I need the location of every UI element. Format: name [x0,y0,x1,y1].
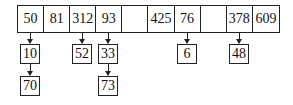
chain-node: 6 [177,44,197,64]
arrow-down-icon [30,33,31,43]
chain-node: 52 [72,44,92,64]
arrow-down-icon [108,64,109,75]
arrow-down-icon [30,64,31,75]
arrow-down-icon [108,33,109,43]
table-slot-4 [122,6,148,32]
chain-node: 33 [98,44,118,64]
arrow-down-icon [187,33,188,43]
hash-table-array: 50 81 312 93 425 76 378 609 [17,5,280,33]
chain-node: 73 [98,76,118,96]
chain-node: 48 [229,44,249,64]
arrow-down-icon [82,33,83,43]
chain-node: 10 [20,44,40,64]
table-slot-6: 76 [175,6,201,32]
arrow-down-icon [239,33,240,43]
table-slot-2: 312 [70,6,96,32]
table-slot-8: 378 [227,6,253,32]
table-slot-5: 425 [148,6,174,32]
chain-node: 70 [20,76,40,96]
table-slot-0: 50 [18,6,44,32]
table-slot-1: 81 [44,6,70,32]
table-slot-3: 93 [96,6,122,32]
table-slot-7 [201,6,227,32]
table-slot-9: 609 [253,6,279,32]
